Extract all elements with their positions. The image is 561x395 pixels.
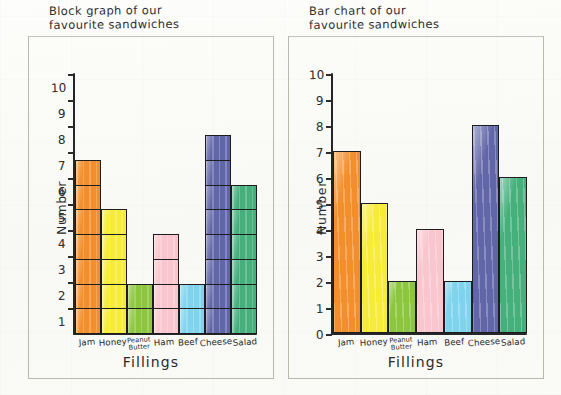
block-graph-block <box>205 308 231 334</box>
bar-chart-x-tick-labels: JamHoneyPeanut ButterHamBeefCheeseSalad <box>333 338 527 352</box>
block-graph-x-label: Salad <box>232 337 257 353</box>
block-graph-x-label: Jam <box>75 337 100 353</box>
bar-chart-y-tick-8 <box>326 126 332 128</box>
block-graph-y-tick-5 <box>68 204 74 206</box>
bar-chart-x-label: Beef <box>441 337 469 353</box>
block-graph-column <box>179 73 205 333</box>
bar-chart-column <box>444 73 472 333</box>
bar-chart-y-tick-2 <box>326 282 332 284</box>
block-graph-block <box>231 209 257 235</box>
block-graph-x-label: Beef <box>176 337 201 353</box>
block-graph-block <box>231 259 257 285</box>
block-graph-block <box>153 308 179 334</box>
block-graph-block <box>231 308 257 334</box>
bar-chart-column <box>333 73 361 333</box>
bar-chart-y-tick-4 <box>326 230 332 232</box>
bar-chart-bar <box>388 281 416 333</box>
bar-chart-columns <box>333 73 527 333</box>
block-graph-y-tick-label-8: 8 <box>58 134 66 146</box>
block-graph-block <box>179 308 205 334</box>
block-graph-y-tick-label-7: 7 <box>58 160 66 172</box>
block-graph-block <box>205 160 231 186</box>
bar-chart-title: Bar chart of our favourite sandwiches <box>309 3 539 32</box>
bar-chart-y-tick-10 <box>326 74 332 76</box>
block-graph-block <box>153 284 179 310</box>
block-graph-column <box>231 73 257 333</box>
block-graph-x-label: Honey <box>99 337 128 353</box>
bar-chart-column <box>361 73 389 333</box>
block-graph-y-tick-4 <box>68 230 74 232</box>
block-graph-y-tick-10 <box>68 74 74 76</box>
bar-chart-y-tick-1 <box>326 308 332 310</box>
block-graph-block <box>101 259 127 285</box>
worksheet-sheet: Block graph of our favourite sandwiches … <box>0 0 561 395</box>
block-graph-block <box>75 185 101 211</box>
block-graph-x-label: Ham <box>151 337 176 353</box>
bar-chart-y-tick-5 <box>326 204 332 206</box>
block-graph-column <box>205 73 231 333</box>
bar-chart-y-tick-9 <box>326 100 332 102</box>
block-graph-block <box>75 308 101 334</box>
block-graph-y-tick-label-1: 1 <box>58 316 66 328</box>
block-graph-y-tick-label-5: 5 <box>58 212 66 224</box>
block-graph-block <box>205 284 231 310</box>
block-graph-block <box>75 234 101 260</box>
bar-chart-bar <box>333 151 361 333</box>
block-graph-y-tick-label-6: 6 <box>58 186 66 198</box>
bar-chart-bar <box>444 281 472 333</box>
block-graph-column <box>127 73 153 333</box>
block-graph-x-label: Cheese <box>200 337 233 353</box>
bar-chart-y-tick-label-6: 6 <box>316 173 324 185</box>
block-graph-block <box>179 284 205 310</box>
bar-chart-y-tick-6 <box>326 178 332 180</box>
block-graph-y-tick-label-2: 2 <box>58 290 66 302</box>
bar-chart-bar <box>416 229 444 333</box>
bar-chart-y-tick-label-1: 1 <box>316 303 324 315</box>
block-graph-y-tick-label-3: 3 <box>58 264 66 276</box>
block-graph-y-tick-7 <box>68 152 74 154</box>
block-graph-title: Block graph of our favourite sandwiches <box>49 3 279 32</box>
block-graph-x-tick-labels: JamHoneyPeanut ButterHamBeefCheeseSalad <box>75 338 257 352</box>
block-graph-column <box>75 73 101 333</box>
bar-chart-y-tick-label-8: 8 <box>316 121 324 133</box>
block-graph-block <box>101 284 127 310</box>
bar-chart-x-axis-line <box>331 333 527 335</box>
bar-chart-y-tick-label-3: 3 <box>316 251 324 263</box>
bar-chart-x-axis-title: Fillings <box>289 354 543 370</box>
block-graph-panel: Block graph of our favourite sandwiches … <box>28 36 274 379</box>
bar-chart-column <box>388 73 416 333</box>
block-graph-block <box>153 234 179 260</box>
bar-chart-y-tick-label-9: 9 <box>316 95 324 107</box>
bar-chart-column <box>499 73 527 333</box>
block-graph-y-tick-2 <box>68 282 74 284</box>
bar-chart-x-label: Salad <box>500 337 528 353</box>
bar-chart-y-tick-label-2: 2 <box>316 277 324 289</box>
block-graph-y-tick-3 <box>68 256 74 258</box>
block-graph-y-tick-label-10: 10 <box>51 82 67 94</box>
block-graph-block <box>205 234 231 260</box>
block-graph-block <box>75 284 101 310</box>
block-graph-x-label: Peanut Butter <box>127 336 152 352</box>
block-graph-x-axis-title: Fillings <box>29 354 273 370</box>
bar-chart-y-tick-label-4: 4 <box>316 225 324 237</box>
bar-chart-x-label: Honey <box>359 337 388 353</box>
block-graph-block <box>127 284 153 310</box>
bar-chart-column <box>416 73 444 333</box>
block-graph-block <box>205 185 231 211</box>
bar-chart-x-label: Cheese <box>467 337 500 353</box>
block-graph-column <box>101 73 127 333</box>
block-graph-block <box>205 135 231 161</box>
bar-chart-y-tick-label-0: 0 <box>316 329 324 341</box>
block-graph-block <box>127 308 153 334</box>
block-graph-block <box>205 259 231 285</box>
block-graph-block <box>75 259 101 285</box>
block-graph-y-tick-9 <box>68 100 74 102</box>
block-graph-y-tick-1 <box>68 308 74 310</box>
bar-chart-y-tick-0 <box>326 334 332 336</box>
bar-chart-x-label: Peanut Butter <box>387 336 415 352</box>
block-graph-block <box>231 284 257 310</box>
bar-chart-column <box>472 73 500 333</box>
bar-chart-y-tick-label-5: 5 <box>316 199 324 211</box>
block-graph-block <box>75 160 101 186</box>
block-graph-column <box>153 73 179 333</box>
